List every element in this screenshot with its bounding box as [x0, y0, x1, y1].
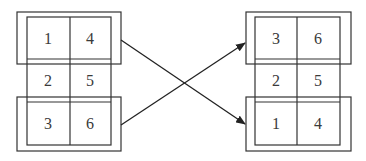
right-cell-r3c1: 1 [272, 115, 280, 132]
swap-arrows [121, 40, 245, 125]
right-bottom-group-box [246, 97, 351, 151]
right-cell-r1c1: 3 [272, 30, 280, 47]
arrow-bottom-to-top-icon [121, 43, 245, 125]
left-cell-r3c1: 3 [44, 115, 52, 132]
diagram-svg: 1 4 2 5 3 6 3 6 2 5 1 4 [0, 0, 366, 161]
right-cell-r3c2: 4 [314, 115, 322, 132]
left-bottom-group-box [17, 97, 121, 151]
left-top-group-box [17, 12, 121, 64]
left-cell-r1c2: 4 [86, 30, 94, 47]
right-cell-r2c2: 5 [314, 72, 322, 89]
left-cell-r1c1: 1 [44, 30, 52, 47]
right-grid [246, 12, 351, 151]
row-swap-diagram: 1 4 2 5 3 6 3 6 2 5 1 4 [0, 0, 366, 161]
right-cell-r1c2: 6 [314, 30, 322, 47]
right-cell-r2c1: 2 [272, 72, 280, 89]
arrow-top-to-bottom-icon [121, 40, 245, 124]
left-grid-labels: 1 4 2 5 3 6 [44, 30, 94, 132]
left-inner-grid [27, 17, 111, 145]
left-cell-r2c1: 2 [44, 72, 52, 89]
left-cell-r3c2: 6 [86, 115, 94, 132]
left-cell-r2c2: 5 [86, 72, 94, 89]
right-top-group-box [246, 12, 351, 64]
left-grid [17, 12, 121, 151]
